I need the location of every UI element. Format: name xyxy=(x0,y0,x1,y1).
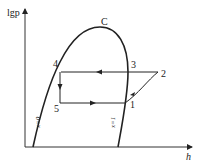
lgp-h-diagram: lgp h C 4 3 2 5 1 x=0 x=1 xyxy=(0,0,203,163)
saturated-liquid-label: x=0 xyxy=(34,116,42,129)
y-axis-label: lgp xyxy=(7,7,20,18)
point-1-label: 1 xyxy=(130,99,135,110)
point-2-label: 2 xyxy=(161,68,166,79)
x-axis-label: h xyxy=(186,151,191,162)
arrow-5-1 xyxy=(90,101,96,106)
saturation-dome xyxy=(33,27,128,147)
point-4-label: 4 xyxy=(53,58,58,69)
arrow-2-4 xyxy=(96,70,102,75)
point-3-label: 3 xyxy=(131,59,136,70)
arrow-4-5 xyxy=(58,84,63,90)
critical-point-label: C xyxy=(101,16,108,27)
saturated-vapor-label: x=1 xyxy=(109,117,117,129)
point-5-label: 5 xyxy=(54,103,59,114)
